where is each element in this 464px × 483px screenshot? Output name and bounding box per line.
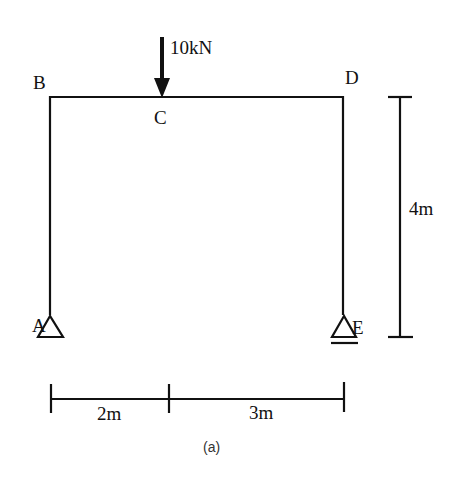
node-label-e: E	[352, 318, 364, 337]
figure-caption: (a)	[203, 440, 220, 454]
node-label-c: C	[154, 108, 167, 127]
node-label-a: A	[32, 316, 46, 335]
height-label: 4m	[409, 199, 433, 218]
frame-members	[50, 97, 343, 315]
load-label: 10kN	[170, 38, 212, 57]
frame-diagram	[0, 0, 464, 483]
node-label-b: B	[33, 73, 46, 92]
node-label-d: D	[345, 68, 359, 87]
span-left-label: 2m	[97, 404, 121, 423]
load-arrow-icon	[154, 37, 170, 98]
span-right-label: 3m	[249, 403, 273, 422]
